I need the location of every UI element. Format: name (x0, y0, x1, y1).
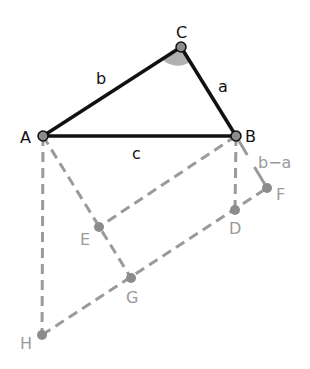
triangle-diagram: A B C D E F G H b a c b−a (0, 0, 310, 369)
point-d (230, 205, 240, 215)
label-f: F (276, 185, 285, 204)
side-b (43, 47, 181, 136)
point-h (37, 330, 47, 340)
point-a (38, 131, 48, 141)
point-b (231, 131, 241, 141)
label-a: A (20, 128, 31, 147)
point-e (94, 222, 104, 232)
point-f (262, 183, 272, 193)
label-c: C (176, 23, 187, 42)
label-b: B (245, 127, 256, 146)
point-c (176, 42, 186, 52)
label-e: E (80, 230, 90, 249)
segment-ag (43, 136, 131, 278)
label-b-minus-a: b−a (258, 153, 291, 172)
label-h: H (20, 334, 32, 353)
label-side-c: c (132, 144, 141, 163)
segment-be (99, 136, 236, 227)
segment-bd (235, 136, 236, 210)
label-d: D (229, 219, 241, 238)
segment-ah (42, 136, 43, 335)
point-g (126, 273, 136, 283)
label-side-b: b (96, 69, 106, 88)
label-side-a: a (218, 77, 228, 96)
label-g: G (126, 288, 138, 307)
